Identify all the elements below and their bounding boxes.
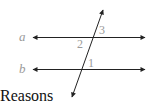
reasons-heading: Reasons [0,87,53,105]
angle-1-label: 1 [88,56,94,70]
angle-2-label: 2 [77,37,83,51]
line-a-label: a [19,29,26,44]
angle-3-label: 3 [99,23,105,37]
line-b-label: b [19,61,26,76]
